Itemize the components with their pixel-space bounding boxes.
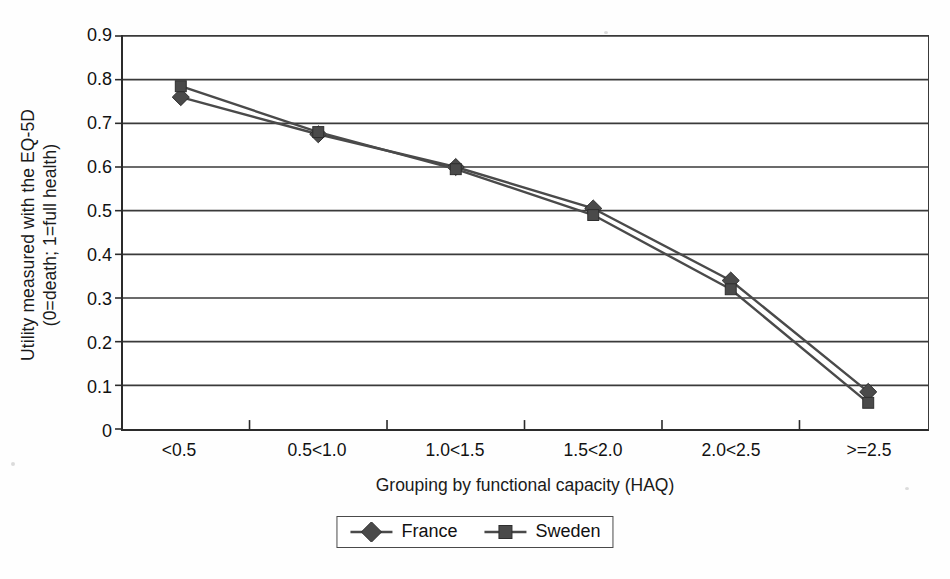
- y-axis-tick-label: 0.7: [58, 113, 112, 134]
- data-point-marker-square: [499, 525, 512, 538]
- data-point-marker-square: [175, 81, 186, 92]
- y-axis-tick-label: 0.6: [58, 157, 112, 178]
- y-axis-tick-label: 0.9: [58, 25, 112, 46]
- scan-speck: [11, 462, 15, 466]
- data-point-marker-square: [313, 127, 324, 138]
- plot-area: [121, 35, 929, 431]
- data-point-marker-diamond: [361, 522, 381, 542]
- legend-item-france[interactable]: France: [349, 521, 457, 542]
- scan-speck: [604, 31, 608, 34]
- x-axis-tick-label: >=2.5: [847, 440, 892, 461]
- x-axis-tick-label: 1.5<2.0: [564, 440, 623, 461]
- series-layer: [123, 36, 928, 429]
- x-axis-tick-label: 2.0<2.5: [702, 440, 761, 461]
- x-axis-tick-label: <0.5: [162, 440, 197, 461]
- y-axis-tick-label: 0.1: [58, 377, 112, 398]
- series-sweden: [175, 81, 873, 409]
- data-point-marker-square: [863, 397, 874, 408]
- legend-item-label: France: [401, 521, 457, 542]
- x-axis-tick-labels: <0.50.5<1.01.0<1.51.5<2.02.0<2.5>=2.5: [121, 440, 929, 470]
- chart-legend: FranceSweden: [336, 516, 613, 548]
- y-axis-tick-label: 0: [58, 421, 112, 442]
- y-axis-tick-label: 0.3: [58, 289, 112, 310]
- data-point-marker-square: [450, 164, 461, 175]
- y-axis-tick-label: 0.2: [58, 333, 112, 354]
- y-axis-tick-labels: 00.10.20.30.40.50.60.70.80.9: [58, 0, 112, 579]
- legend-item-sweden[interactable]: Sweden: [483, 521, 600, 542]
- y-axis-tick-label: 0.8: [58, 69, 112, 90]
- legend-item-label: Sweden: [535, 521, 600, 542]
- data-point-marker-square: [725, 284, 736, 295]
- data-point-marker-square: [588, 210, 599, 221]
- series-france: [172, 89, 877, 401]
- legend-square-icon: [483, 522, 527, 542]
- series-line: [181, 97, 868, 392]
- y-axis-title-line-1: Utility measured with the EQ-5D: [18, 109, 40, 361]
- y-axis-tick-label: 0.4: [58, 245, 112, 266]
- x-axis-tick-label: 0.5<1.0: [288, 440, 347, 461]
- chart-page: Utility measured with the EQ-5D (0=death…: [0, 0, 950, 579]
- x-axis-title: Grouping by functional capacity (HAQ): [121, 475, 929, 496]
- y-axis-tick-label: 0.5: [58, 201, 112, 222]
- legend-diamond-icon: [349, 522, 393, 542]
- x-axis-tick-label: 1.0<1.5: [426, 440, 485, 461]
- series-line: [181, 86, 868, 403]
